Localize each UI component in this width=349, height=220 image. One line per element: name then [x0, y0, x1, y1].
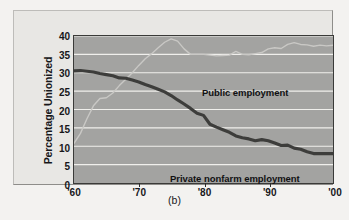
- figure-frame: Percentage Unionized 0510152025303540 '6…: [13, 10, 333, 185]
- y-tick-label: 15: [59, 124, 70, 135]
- series-label-public-employment: Public employment: [202, 87, 288, 98]
- figure-caption: (b): [0, 194, 349, 206]
- figure-container: Percentage Unionized 0510152025303540 '6…: [0, 0, 349, 220]
- y-tick-label: 35: [59, 49, 70, 60]
- y-tick-label: 5: [64, 161, 70, 172]
- y-tick-label: 25: [59, 86, 70, 97]
- y-tick-label: 10: [59, 142, 70, 153]
- plot-panel: Percentage Unionized 0510152025303540 '6…: [73, 35, 334, 184]
- y-axis-title: Percentage Unionized: [42, 36, 58, 185]
- y-tick-label: 30: [59, 68, 70, 79]
- y-tick-label: 20: [59, 105, 70, 116]
- x-tick-mark: [139, 183, 140, 187]
- y-tick-label: 40: [59, 31, 70, 42]
- series-lines: [74, 36, 333, 183]
- series-line-1: [74, 71, 333, 154]
- series-label-private-nonfarm-employment: Private nonfarm employment: [170, 173, 300, 184]
